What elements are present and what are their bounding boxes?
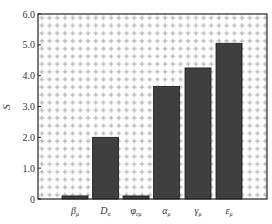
bar-chart: 01.02.03.04.05.06.0 βμDαφcμαμγμεμ S [0,0,272,224]
y-tick-label: 3.0 [23,101,36,112]
bar-5 [216,43,242,199]
y-axis-label: S [0,104,12,110]
x-axis: βμDαφcμαμγμεμ [70,205,232,217]
bar-3 [154,86,180,199]
y-tick-label: 4.0 [23,70,36,81]
x-category-label: βμ [70,205,79,217]
x-category-label: γμ [195,205,202,217]
x-category-label: φcμ [130,205,141,217]
bar-4 [185,68,211,199]
x-category-label: εμ [226,205,233,217]
plot-area [38,14,267,199]
y-tick-label: 1.0 [23,163,36,174]
y-tick-label: 5.0 [23,39,36,50]
y-tick-label: 6.0 [23,9,36,20]
x-category-label: Dα [99,205,111,217]
y-tick-label: 0 [30,194,35,205]
y-tick-label: 2.0 [23,132,36,143]
x-category-label: αμ [162,205,170,217]
bar-1 [93,137,119,199]
